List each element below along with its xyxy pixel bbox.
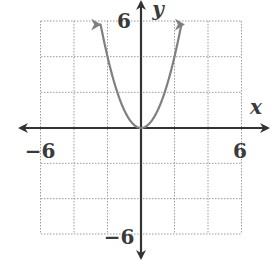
- parabola-graph: 6 −6 6 −6 x y: [0, 0, 271, 261]
- x-max-tick-label: 6: [233, 139, 247, 163]
- y-max-tick-label: 6: [117, 9, 131, 33]
- x-min-tick-label: −6: [25, 139, 56, 163]
- y-axis-label: y: [151, 0, 165, 21]
- y-min-tick-label: −6: [104, 225, 135, 249]
- axes: [20, 2, 268, 258]
- x-axis-label: x: [249, 95, 263, 119]
